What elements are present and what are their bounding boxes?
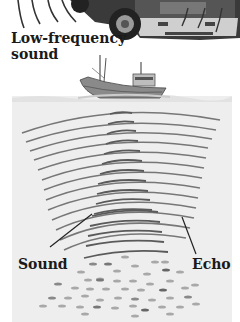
sonar-diagram: Low-frequency sound Sound Echo [0, 0, 240, 322]
low-frequency-label-line1: Low-frequency [11, 30, 151, 46]
low-frequency-sound-label: Low-frequency sound [11, 30, 151, 62]
sound-label: Sound [18, 256, 68, 272]
echo-label: Echo [192, 256, 231, 272]
low-frequency-label-line2: sound [11, 46, 151, 62]
